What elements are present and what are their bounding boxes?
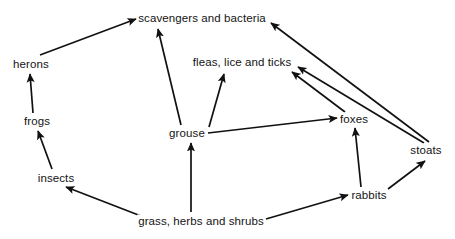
food-web-arrow-grouse-to-fleas xyxy=(209,74,224,127)
food-web-node-stoats: stoats xyxy=(409,144,442,157)
food-web-arrow-grass-to-insects xyxy=(66,187,141,216)
food-web-node-herons: herons xyxy=(12,58,50,71)
food-web-node-frogs: frogs xyxy=(23,115,51,128)
food-web-node-fleas: fleas, lice and ticks xyxy=(192,56,293,69)
food-web-arrows-layer xyxy=(0,0,455,239)
food-web-arrow-grass-to-rabbits xyxy=(266,195,348,219)
food-web-node-grouse: grouse xyxy=(168,127,206,140)
food-web-node-foxes: foxes xyxy=(339,113,369,126)
food-web-node-rabbits: rabbits xyxy=(350,189,387,202)
food-web-arrow-stoats-to-fleas xyxy=(298,67,424,143)
food-web-arrow-grouse-to-foxes xyxy=(208,118,337,133)
food-web-arrow-frogs-to-herons xyxy=(30,74,33,113)
food-web-arrow-insects-to-frogs xyxy=(38,131,52,169)
food-web-arrow-herons-to-scavengers xyxy=(40,19,136,55)
food-web-arrow-foxes-to-fleas xyxy=(292,72,345,112)
food-web-node-scavengers: scavengers and bacteria xyxy=(137,12,267,25)
food-web-arrow-rabbits-to-stoats xyxy=(388,161,425,189)
food-web-node-insects: insects xyxy=(37,172,76,185)
food-web-arrow-rabbits-to-foxes xyxy=(355,128,361,187)
food-web-arrow-grouse-to-scavengers xyxy=(158,29,181,125)
food-web-node-grass: grass, herbs and shrubs xyxy=(137,215,265,228)
food-web-diagram: scavengers and bacteriaheronsfleas, lice… xyxy=(0,0,455,239)
